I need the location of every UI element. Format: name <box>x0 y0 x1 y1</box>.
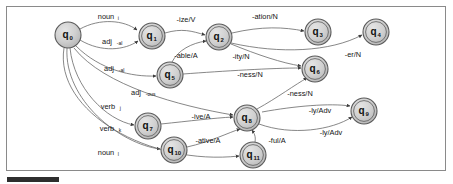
edge-label-subscript: k <box>119 127 122 133</box>
edge-label-text: -ive/A <box>192 112 211 121</box>
state-node-q6[interactable]: q6 <box>302 56 328 82</box>
edge-label-text: -ly/Adv <box>309 106 332 115</box>
edge-label-text: -ly/Adv <box>320 128 343 137</box>
state-label-q0: q <box>62 29 68 40</box>
edge-label-e-q2-q6: -ity/N <box>232 52 249 61</box>
edge-q1-q2-ize <box>165 30 205 35</box>
edge-q0-q7-verb <box>70 48 134 125</box>
edge-label-text: -er/N <box>345 50 361 59</box>
state-label-q4: q <box>370 26 376 37</box>
edge-label-text: -ful/A <box>268 136 285 145</box>
edge-q2-q3-ation <box>232 28 304 33</box>
state-subscript-q10: 10 <box>175 150 182 156</box>
edge-label-e-q0-q11-noun: nounl <box>98 148 119 157</box>
state-subscript-q11: 11 <box>254 155 261 161</box>
edge-label-e-q6-q9: -ly/Adv <box>309 106 332 115</box>
state-label-q11: q <box>246 149 252 160</box>
state-label-q9: q <box>358 105 364 116</box>
edge-label-e-q0-q7-verb: verbj <box>101 102 121 111</box>
edge-label-e-q8-q9: -ly/Adv <box>320 128 343 137</box>
edge-label-subscript: i <box>118 15 119 21</box>
state-node-q8[interactable]: q8 <box>234 105 260 131</box>
state-label-q6: q <box>309 63 315 74</box>
edge-label-text: -ity/N <box>232 52 249 61</box>
state-node-q11[interactable]: q11 <box>240 142 266 168</box>
edge-label-e-q7-q8: -ive/A <box>192 112 211 121</box>
edge-label-e-q10-q8: -ative/A <box>195 136 220 145</box>
state-label-q3: q <box>312 26 318 37</box>
edge-label-text: adj <box>102 37 112 46</box>
edge-label-e-q11-q8: -ful/A <box>268 136 285 145</box>
edge-q6-q9-ly <box>262 105 350 112</box>
edge-label-text: verb <box>101 102 115 111</box>
edge-label-e-q0-q1-noun: nouni <box>98 12 119 21</box>
edge-label-subscript: -ous <box>146 91 156 97</box>
edge-q3-q4-er <box>231 35 362 50</box>
edge-label-e-q8-q6: -ness/N <box>287 89 312 98</box>
state-node-q5[interactable]: q5 <box>157 62 183 88</box>
edge-label-text: verb <box>100 124 114 133</box>
edge-label-text: -ize/V <box>177 15 196 24</box>
edge-label-subscript: j <box>119 105 121 111</box>
edge-label-e-q2-q3: -ation/N <box>252 12 278 21</box>
edge-label-subscript: -al <box>117 40 123 46</box>
figure-page: q0q1q2q3q4q5q6q7q8q9q10q11 nouniadj-al-i… <box>0 0 453 184</box>
state-label-q7: q <box>142 120 148 131</box>
state-node-q9[interactable]: q9 <box>351 98 377 124</box>
caption-text <box>66 176 446 184</box>
edge-label-text: adj <box>131 88 141 97</box>
state-label-q8: q <box>241 112 247 123</box>
edge-label-subscript: -al <box>119 67 125 73</box>
edge-label-text: -ative/A <box>195 136 220 145</box>
edge-label-subscript: l <box>118 151 119 157</box>
state-node-q4[interactable]: q4 <box>363 19 389 45</box>
edge-label-text: noun <box>98 12 114 21</box>
state-node-q10[interactable]: q10 <box>161 137 187 163</box>
edge-q11-q8-ful <box>252 130 255 142</box>
edge-q0-q1-noun <box>80 22 137 30</box>
edge-label-text: -ation/N <box>252 12 278 21</box>
edge-label-text: adj <box>104 64 114 73</box>
automaton-graph: q0q1q2q3q4q5q6q7q8q9q10q11 nouniadj-al-i… <box>0 0 453 184</box>
edge-q0-q5-adj <box>76 46 156 76</box>
state-node-q7[interactable]: q7 <box>135 113 161 139</box>
state-label-q5: q <box>164 69 170 80</box>
state-label-q10: q <box>167 144 173 155</box>
edge-label-e-q0-q8-adj: adj-ous <box>131 88 156 97</box>
edge-label-e-q0-q5-adj: adj-al <box>104 64 124 73</box>
edge-label-text: -ness/N <box>287 89 312 98</box>
edge-label-e-q5-q6: -ness/N <box>237 70 262 79</box>
caption-bar <box>7 177 59 182</box>
edge-label-e-q0-q10-verb: verbk <box>100 124 122 133</box>
edge-label-text: -able/A <box>174 51 197 60</box>
edge-label-e-q0-q1-adj: adj-al <box>102 37 122 46</box>
edge-label-e-q5-q2: -able/A <box>174 51 197 60</box>
edge-label-e-q3-q4: -er/N <box>345 50 361 59</box>
state-node-q2[interactable]: q2 <box>206 24 232 50</box>
state-label-q1: q <box>146 30 152 41</box>
state-node-q0[interactable]: q0 <box>55 22 81 48</box>
edge-label-e-q1-q2: -ize/V <box>177 15 196 24</box>
state-node-q3[interactable]: q3 <box>305 19 331 45</box>
edge-label-text: noun <box>98 148 114 157</box>
edge-label-text: -ness/N <box>237 70 262 79</box>
state-node-q1[interactable]: q1 <box>139 23 165 49</box>
state-label-q2: q <box>213 31 219 42</box>
